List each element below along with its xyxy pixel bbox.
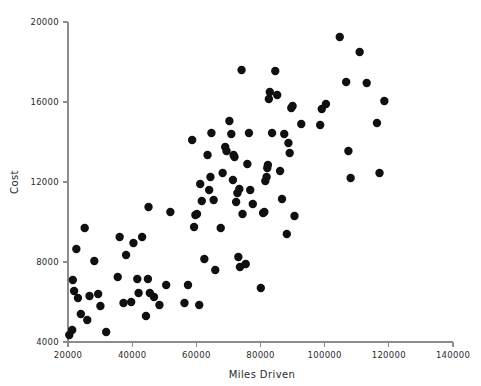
data-point (138, 233, 146, 241)
data-point (188, 136, 196, 144)
data-point (96, 302, 104, 310)
data-point (77, 310, 85, 318)
data-point (142, 312, 150, 320)
data-point (380, 97, 388, 105)
data-point (83, 316, 91, 324)
data-point (222, 147, 230, 155)
data-point (94, 290, 102, 298)
data-point (322, 100, 330, 108)
data-point (114, 273, 122, 281)
y-tick-label: 16000 (30, 97, 59, 107)
data-point (235, 185, 243, 193)
data-point (217, 224, 225, 232)
data-point (237, 66, 245, 74)
data-point (127, 298, 135, 306)
data-points-group (65, 33, 388, 339)
data-point (133, 275, 141, 283)
data-point (276, 167, 284, 175)
data-point (144, 275, 152, 283)
data-point (280, 130, 288, 138)
data-point (342, 78, 350, 86)
scatter-chart: 4000800012000160002000020000400006000080… (0, 0, 481, 386)
data-point (122, 251, 130, 259)
x-tick-label: 80000 (246, 350, 275, 360)
data-point (243, 160, 251, 168)
x-tick-label: 120000 (372, 350, 406, 360)
data-point (227, 130, 235, 138)
data-point (249, 200, 257, 208)
data-point (180, 299, 188, 307)
y-tick-label: 8000 (36, 257, 59, 267)
data-point (72, 245, 80, 253)
data-point (218, 169, 226, 177)
data-point (69, 276, 77, 284)
data-point (196, 180, 204, 188)
data-point (225, 117, 233, 125)
data-point (193, 210, 201, 218)
data-point (336, 33, 344, 41)
axis-group (68, 22, 453, 342)
data-point (266, 88, 274, 96)
data-point (264, 161, 272, 169)
data-point (200, 255, 208, 263)
y-axis-title: Cost (9, 170, 20, 194)
data-point (283, 230, 291, 238)
data-point (144, 203, 152, 211)
data-point (74, 294, 82, 302)
data-point (246, 186, 254, 194)
data-point (155, 301, 163, 309)
data-point (234, 253, 242, 261)
data-point (373, 119, 381, 127)
y-tick-label: 20000 (30, 17, 59, 27)
data-point (129, 239, 137, 247)
data-point (230, 153, 238, 161)
data-point (166, 208, 174, 216)
data-point (262, 173, 270, 181)
data-point (85, 292, 93, 300)
data-point (115, 233, 123, 241)
data-point (184, 281, 192, 289)
x-tick-label: 140000 (436, 350, 470, 360)
data-point (134, 289, 142, 297)
data-point (162, 281, 170, 289)
data-point (355, 48, 363, 56)
data-point (102, 328, 110, 336)
data-point (209, 196, 217, 204)
data-point (278, 195, 286, 203)
data-point (273, 91, 281, 99)
data-point (344, 147, 352, 155)
data-point (284, 139, 292, 147)
x-tick-label: 40000 (118, 350, 147, 360)
data-point (242, 260, 250, 268)
data-point (260, 208, 268, 216)
data-point (203, 151, 211, 159)
data-point (375, 169, 383, 177)
data-point (207, 129, 215, 137)
data-point (229, 176, 237, 184)
data-point (297, 120, 305, 128)
y-tick-label: 4000 (36, 337, 59, 347)
data-point (245, 129, 253, 137)
data-point (119, 299, 127, 307)
data-point (271, 67, 279, 75)
data-point (288, 102, 296, 110)
data-point (150, 293, 158, 301)
data-point (68, 326, 76, 334)
data-point (257, 284, 265, 292)
data-point (190, 223, 198, 231)
data-point (286, 149, 294, 157)
data-point (205, 186, 213, 194)
data-point (198, 197, 206, 205)
plot-canvas: 4000800012000160002000020000400006000080… (0, 0, 481, 386)
data-point (90, 257, 98, 265)
data-point (206, 173, 214, 181)
data-point (363, 79, 371, 87)
data-point (195, 301, 203, 309)
x-tick-label: 20000 (54, 350, 83, 360)
data-point (268, 129, 276, 137)
x-tick-label: 60000 (182, 350, 211, 360)
y-tick-label: 12000 (30, 177, 59, 187)
data-point (80, 224, 88, 232)
data-point (290, 212, 298, 220)
data-point (211, 266, 219, 274)
